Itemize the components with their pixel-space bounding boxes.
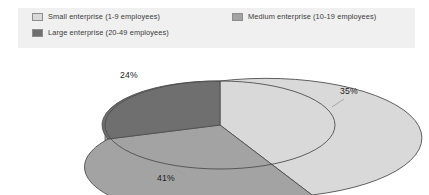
pie-value-label-small-enterprise: 35% [340, 86, 358, 96]
pie-value-label-medium-enterprise: 24% [120, 70, 138, 80]
chart-legend: Small enterprise (1-9 employees) Large e… [18, 8, 415, 48]
legend-label-small-enterprise: Small enterprise (1-9 employees) [48, 12, 160, 22]
legend-item-small-enterprise[interactable]: Small enterprise (1-9 employees) [32, 12, 160, 22]
legend-swatch-medium-enterprise-icon [232, 13, 243, 21]
pie-chart-plot: 35% 41% 24% [0, 55, 429, 195]
legend-swatch-small-enterprise-icon [32, 13, 43, 21]
pie-value-label-large-enterprise: 41% [157, 173, 175, 183]
legend-item-medium-enterprise[interactable]: Medium enterprise (10-19 employees) [232, 12, 376, 22]
legend-label-large-enterprise: Large enterprise (20-49 employees) [48, 28, 169, 38]
legend-swatch-large-enterprise-icon [32, 29, 43, 37]
legend-item-large-enterprise[interactable]: Large enterprise (20-49 employees) [32, 28, 169, 38]
legend-label-medium-enterprise: Medium enterprise (10-19 employees) [248, 12, 376, 22]
pie-chart-figure: Small enterprise (1-9 employees) Large e… [0, 0, 429, 195]
pie-chart-svg [0, 55, 429, 195]
